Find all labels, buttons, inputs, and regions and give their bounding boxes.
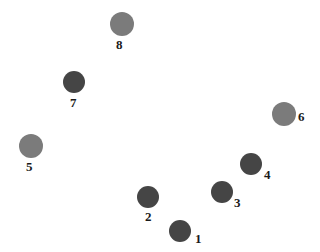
node-3-label: 3 bbox=[234, 196, 241, 209]
node-1-circle bbox=[169, 220, 191, 242]
node-4-circle bbox=[240, 153, 262, 175]
node-6-circle bbox=[272, 102, 296, 126]
node-8-circle bbox=[110, 12, 134, 36]
node-7-label: 7 bbox=[70, 96, 77, 109]
node-3-circle bbox=[211, 181, 233, 203]
node-7-circle bbox=[63, 71, 85, 93]
node-4-label: 4 bbox=[264, 168, 271, 181]
node-5-label: 5 bbox=[26, 160, 33, 173]
node-6-label: 6 bbox=[298, 110, 305, 123]
node-2-circle bbox=[137, 186, 159, 208]
node-8-label: 8 bbox=[116, 38, 123, 51]
node-1-label: 1 bbox=[195, 232, 202, 245]
node-2-label: 2 bbox=[145, 210, 152, 223]
node-5-circle bbox=[19, 134, 43, 158]
